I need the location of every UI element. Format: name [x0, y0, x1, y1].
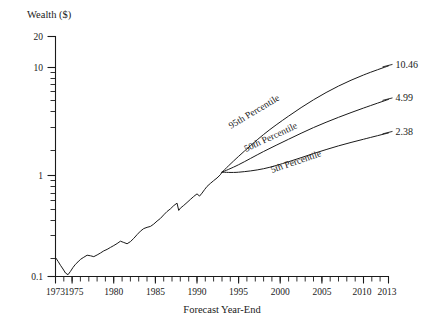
curve-label-95th-percentile: 95th Percentile: [227, 93, 281, 131]
historical-wealth-line: [56, 172, 223, 275]
x-tick-label-2013: 2013: [378, 287, 397, 297]
y-tick-label-1: 1: [38, 171, 43, 181]
y-axis-title: Wealth ($): [27, 9, 72, 21]
x-tick-label-1990: 1990: [188, 287, 207, 297]
wealth-forecast-chart: 20 10 1 0.1 Wealth ($): [0, 0, 423, 322]
endpoint-value-5th: 2.38: [396, 126, 414, 137]
y-tick-label-10: 10: [34, 63, 44, 73]
x-tick-label-1980: 1980: [104, 287, 123, 297]
x-tick-minor-group: [64, 277, 380, 282]
y-tick-label-20: 20: [34, 32, 44, 42]
curve-label-5th-percentile: 5th Percentile: [269, 148, 322, 175]
x-tick-label-1973: 1973: [46, 287, 65, 297]
x-tick-label-1985: 1985: [146, 287, 165, 297]
chart-canvas: 20 10 1 0.1 Wealth ($): [0, 0, 423, 322]
endpoint-value-95th: 10.46: [396, 59, 419, 70]
x-tick-label-2000: 2000: [271, 287, 290, 297]
x-axis: 1973 1975 1980 1985 1990 1995 2000 2005 …: [46, 277, 397, 298]
endpoint-value-50th: 4.99: [396, 92, 414, 103]
curve-label-50th-percentile: 50th Percentile: [243, 121, 299, 154]
y-axis: 20 10 1 0.1: [31, 32, 55, 282]
x-tick-label-1975: 1975: [65, 287, 84, 297]
x-tick-label-2005: 2005: [312, 287, 331, 297]
x-axis-title: Forecast Year-End: [183, 304, 261, 315]
x-tick-label-2010: 2010: [353, 287, 372, 297]
x-tick-label-1995: 1995: [229, 287, 248, 297]
y-tick-label-0.1: 0.1: [31, 272, 43, 282]
